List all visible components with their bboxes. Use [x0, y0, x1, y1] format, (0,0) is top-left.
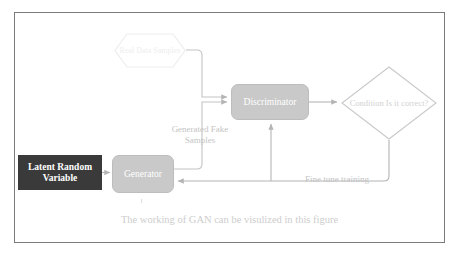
node-real-data-samples-label: Real Data Samples [114, 46, 186, 56]
node-discriminator[interactable]: Discriminator [231, 84, 309, 120]
node-latent-random-variable-label: Latent Random Variable [18, 162, 102, 184]
figure-caption: The working of GAN can be visulized in t… [14, 214, 445, 225]
node-generator[interactable]: Generator [112, 155, 174, 193]
node-real-data-samples[interactable]: Real Data Samples [114, 33, 186, 68]
edge-label-generated-fake-samples: Generated Fake Samples [150, 124, 250, 146]
node-condition-label: Condition Is it correct? [341, 98, 437, 108]
node-condition[interactable]: Condition Is it correct? [341, 66, 437, 140]
edge-label-fine-tune-training: Fine tune training [305, 174, 405, 185]
node-latent-random-variable[interactable]: Latent Random Variable [18, 155, 102, 190]
generator-tick-mark [141, 199, 142, 203]
figure-canvas: Real Data Samples Discriminator Conditio… [0, 0, 459, 262]
node-discriminator-label: Discriminator [244, 97, 297, 107]
node-generator-label: Generator [124, 169, 162, 179]
